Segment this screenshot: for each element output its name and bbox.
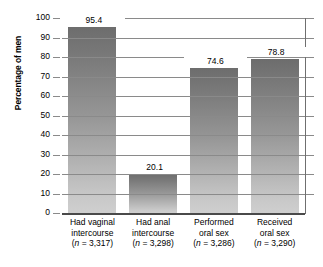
bar-chart-figure: Percentage of men 0102030405060708090100… (0, 0, 323, 267)
y-tick-mark-right (306, 38, 314, 39)
y-tick-mark-left (53, 116, 60, 117)
bar-value-label: 78.8 (245, 47, 308, 57)
sample-size-symbol: n (257, 238, 262, 248)
y-tick-mark-right (306, 194, 314, 195)
gridline (62, 38, 305, 39)
gridline (62, 77, 305, 78)
y-tick-mark-right (306, 174, 314, 175)
y-tick-label: 30 (16, 150, 50, 159)
y-tick-mark-left (53, 38, 60, 39)
bar (190, 68, 238, 213)
bar-value-label: 74.6 (184, 56, 247, 66)
gridline (62, 155, 305, 156)
gridline (62, 96, 305, 97)
y-tick-mark-left (53, 18, 60, 19)
sample-size-symbol: n (196, 238, 201, 248)
x-category-label-line: Received (237, 217, 312, 228)
y-tick-mark-right (306, 18, 314, 19)
x-category-label-line: oral sex (237, 228, 312, 239)
gridline (62, 194, 305, 195)
gridline (62, 135, 305, 136)
x-category-label: Receivedoral sex(n = 3,290) (237, 217, 312, 249)
y-tick-mark-right (306, 77, 314, 78)
y-tick-mark-left (53, 57, 60, 58)
sample-size-label: (n = 3,290) (237, 238, 312, 249)
y-tick-mark-right (306, 135, 314, 136)
y-tick-label: 80 (16, 52, 50, 61)
y-tick-mark-left (53, 77, 60, 78)
y-tick-mark-right (306, 116, 314, 117)
y-tick-label: 100 (16, 13, 50, 22)
y-tick-mark-right (306, 96, 314, 97)
y-tick-label: 50 (16, 111, 50, 120)
y-tick-label: 90 (16, 33, 50, 42)
y-tick-label: 70 (16, 72, 50, 81)
y-tick-mark-right (306, 155, 314, 156)
gridline (62, 174, 305, 175)
y-tick-mark-left (53, 174, 60, 175)
y-tick-mark-left (53, 155, 60, 156)
y-tick-label: 20 (16, 169, 50, 178)
bar-value-label: 95.4 (62, 15, 125, 25)
bar-value-label: 20.1 (123, 162, 186, 172)
bar (251, 59, 299, 213)
gridline (62, 116, 305, 117)
y-tick-mark-left (53, 213, 60, 214)
bar (68, 27, 116, 213)
y-tick-label: 10 (16, 189, 50, 198)
axis-baseline (62, 213, 305, 215)
y-tick-mark-left (53, 96, 60, 97)
sample-size-symbol: n (75, 238, 80, 248)
y-tick-label: 40 (16, 130, 50, 139)
sample-size-symbol: n (135, 238, 140, 248)
y-tick-label: 0 (16, 208, 50, 217)
y-tick-mark-left (53, 194, 60, 195)
y-tick-label: 60 (16, 91, 50, 100)
y-tick-mark-left (53, 135, 60, 136)
